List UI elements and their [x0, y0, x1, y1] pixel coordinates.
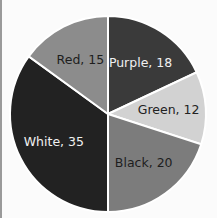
slice-label-purple: Purple, 18	[109, 55, 172, 70]
slice-label-green: Green, 12	[138, 102, 200, 117]
slice-label-white: White, 35	[24, 134, 84, 149]
pie-chart: Purple, 18Green, 12Black, 20White, 35Red…	[0, 0, 217, 218]
slice-label-black: Black, 20	[115, 155, 173, 170]
slice-label-red: Red, 15	[57, 52, 105, 67]
